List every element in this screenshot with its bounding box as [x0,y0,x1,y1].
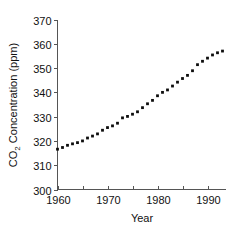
data-point [121,116,124,119]
data-point [181,77,184,80]
x-axis-ticks [59,186,209,190]
data-point [141,106,144,109]
y-axis-title-pre: CO [7,150,19,167]
data-point [56,148,59,151]
y-axis-title-post: Concentration (ppm) [7,43,19,146]
data-point [76,141,79,144]
co2-concentration-chart: 300310320330340350360370 196019701980199… [0,0,232,233]
y-axis-title: CO2 Concentration (ppm) [7,43,22,167]
y-tick-label-310: 310 [33,160,51,172]
svg-text:CO2 Concentration (ppm): CO2 Concentration (ppm) [7,43,22,167]
data-point [126,115,129,118]
data-point [166,89,169,92]
data-point [101,129,104,132]
data-point [206,57,209,60]
chart-canvas: 300310320330340350360370 196019701980199… [0,0,232,233]
data-point [196,63,199,66]
data-point [171,85,174,88]
x-tick-label-1960: 1960 [46,194,70,206]
data-point [136,110,139,113]
y-axis-tick-labels: 300310320330340350360370 [33,15,51,197]
data-point [106,126,109,129]
data-point [216,51,219,54]
data-point [201,60,204,63]
data-point [211,54,214,57]
y-tick-label-360: 360 [33,39,51,51]
data-point [96,132,99,135]
y-tick-label-370: 370 [33,15,51,27]
data-point [91,135,94,138]
data-point [61,146,64,149]
data-point [156,94,159,97]
data-point [131,113,134,116]
data-point [66,144,69,147]
x-axis-title: Year [131,212,154,224]
data-point [151,99,154,102]
data-point [176,81,179,84]
axis-frame [58,20,226,190]
y-tick-label-350: 350 [33,63,51,75]
y-tick-label-340: 340 [33,87,51,99]
data-point [111,124,114,127]
data-point [161,91,164,94]
y-tick-label-320: 320 [33,136,51,148]
data-point [71,142,74,145]
data-point [191,69,194,72]
x-axis-tick-labels: 1960197019801990 [46,194,220,206]
x-tick-label-1970: 1970 [96,194,120,206]
y-tick-label-330: 330 [33,112,51,124]
data-point-series [56,50,224,151]
data-point [81,140,84,143]
x-tick-label-1990: 1990 [196,194,220,206]
data-point [146,102,149,105]
x-tick-label-1980: 1980 [146,194,170,206]
y-axis-ticks [54,21,58,191]
data-point [86,137,89,140]
data-point [116,122,119,125]
data-point [186,74,189,77]
data-point [221,50,224,53]
